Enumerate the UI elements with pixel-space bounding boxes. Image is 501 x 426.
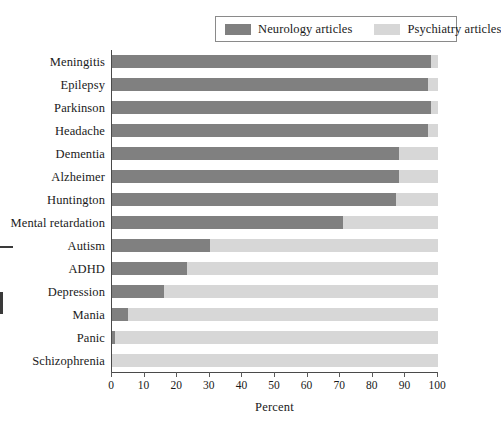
y-axis-label: Schizophrenia <box>32 355 105 368</box>
x-axis-tick <box>241 372 242 377</box>
y-axis-label: Dementia <box>56 148 105 161</box>
bar-segment-neurology <box>112 308 128 322</box>
x-axis-tick <box>404 372 405 377</box>
y-axis-label: Parkinson <box>54 102 105 115</box>
bar-row <box>112 147 438 161</box>
x-axis-tick-label: 40 <box>236 380 248 392</box>
bar-row <box>112 285 438 299</box>
x-axis-tick <box>339 372 340 377</box>
bar-row <box>112 101 438 115</box>
y-axis-label: Epilepsy <box>60 79 105 92</box>
y-axis-label: Autism <box>68 240 105 253</box>
legend-swatch-icon-neurology <box>225 24 251 35</box>
y-axis-label: Mental retardation <box>11 217 105 230</box>
legend-entry-neurology: Neurology articles <box>225 23 352 36</box>
plot-area <box>111 50 438 372</box>
bar-segment-psychiatry <box>112 331 438 345</box>
x-axis-tick <box>437 372 438 377</box>
x-axis-tick-label: 90 <box>399 380 411 392</box>
y-axis-label: Depression <box>48 286 105 299</box>
bar-segment-neurology <box>112 216 343 230</box>
bar-segment-neurology <box>112 262 187 276</box>
legend-label-psychiatry: Psychiatry articles <box>407 23 501 36</box>
bar-segment-neurology <box>112 239 210 253</box>
chart-legend: Neurology articles Psychiatry articles <box>215 16 457 42</box>
x-axis-tick-label: 30 <box>203 380 215 392</box>
legend-swatch-icon-psychiatry <box>374 24 400 35</box>
bar-segment-neurology <box>112 285 164 299</box>
bar-row <box>112 239 438 253</box>
x-axis-tick-label: 10 <box>138 380 150 392</box>
bar-row <box>112 193 438 207</box>
x-axis-tick <box>176 372 177 377</box>
x-axis-tick-label: 50 <box>268 380 280 392</box>
y-axis-label: Meningitis <box>50 56 105 69</box>
bar-row <box>112 78 438 92</box>
x-axis-tick-label: 70 <box>333 380 345 392</box>
legend-label-neurology: Neurology articles <box>258 23 352 36</box>
x-axis-tick-label: 20 <box>170 380 182 392</box>
x-axis-tick <box>274 372 275 377</box>
legend-entry-psychiatry: Psychiatry articles <box>374 23 501 36</box>
x-axis-tick-label: 100 <box>428 380 445 392</box>
x-axis-tick <box>144 372 145 377</box>
bar-segment-neurology <box>112 78 428 92</box>
bar-segment-neurology <box>112 331 115 345</box>
y-axis-labels: MeningitisEpilepsyParkinsonHeadacheDemen… <box>0 50 105 372</box>
bar-segment-neurology <box>112 55 431 69</box>
bar-row <box>112 331 438 345</box>
bar-segment-psychiatry <box>112 308 438 322</box>
bar-row <box>112 354 438 368</box>
bar-rows <box>112 50 438 372</box>
bar-segment-neurology <box>112 170 399 184</box>
y-axis-label: Headache <box>55 125 105 138</box>
page-edge-mark-left <box>0 246 13 248</box>
x-axis-tick <box>209 372 210 377</box>
bar-segment-neurology <box>112 147 399 161</box>
bar-row <box>112 170 438 184</box>
x-axis-tick-label: 80 <box>366 380 378 392</box>
bar-segment-neurology <box>112 101 431 115</box>
bar-segment-neurology <box>112 193 396 207</box>
x-axis-tick-label: 60 <box>301 380 313 392</box>
y-axis-label: Huntington <box>47 194 105 207</box>
x-axis-tick <box>372 372 373 377</box>
x-axis-tick <box>307 372 308 377</box>
bar-segment-neurology <box>112 124 428 138</box>
y-axis-label: Panic <box>77 332 105 345</box>
x-axis-title: Percent <box>111 400 438 415</box>
bar-row <box>112 308 438 322</box>
bar-row <box>112 262 438 276</box>
bar-segment-psychiatry <box>112 354 438 368</box>
bar-row <box>112 55 438 69</box>
x-axis-tick <box>111 372 112 377</box>
y-axis-label: ADHD <box>68 263 105 276</box>
x-axis-tick-label: 0 <box>108 380 114 392</box>
bar-row <box>112 216 438 230</box>
page-edge-mark-left-2 <box>0 292 3 314</box>
y-axis-label: Mania <box>73 309 105 322</box>
bar-row <box>112 124 438 138</box>
y-axis-label: Alzheimer <box>51 171 105 184</box>
